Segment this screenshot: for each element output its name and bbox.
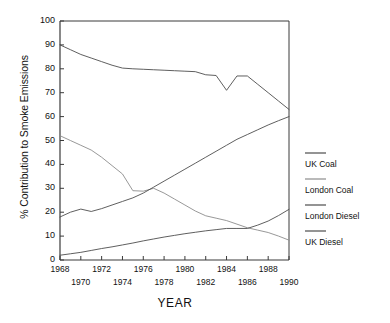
y-tick-label: 10 [25, 230, 55, 240]
x-axis-title: YEAR [60, 296, 290, 310]
y-tick-label: 100 [25, 15, 55, 25]
x-tick-label: 1982 [186, 277, 226, 287]
x-tick-label: 1976 [123, 264, 163, 274]
x-tick-label: 1988 [248, 264, 288, 274]
legend-item-uk-diesel: UK Diesel [305, 237, 343, 247]
x-tick-label: 1978 [144, 277, 184, 287]
x-tick-label: 1970 [61, 277, 101, 287]
x-tick-label: 1990 [269, 277, 309, 287]
x-tick-label: 1974 [102, 277, 142, 287]
axis-ticks [60, 21, 289, 260]
x-tick-label: 1980 [165, 264, 205, 274]
y-tick-label: 60 [25, 111, 55, 121]
y-tick-label: 90 [25, 39, 55, 49]
x-tick-label: 1984 [207, 264, 247, 274]
y-tick-label: 80 [25, 63, 55, 73]
legend-item-london-coal: London Coal [305, 185, 353, 195]
x-tick-label: 1972 [82, 264, 122, 274]
data-series-group [60, 45, 289, 255]
x-tick-label: 1968 [40, 264, 80, 274]
axes-frame [60, 21, 289, 260]
y-tick-label: 30 [25, 182, 55, 192]
legend-item-london-diesel: London Diesel [305, 211, 359, 221]
y-tick-label: 70 [25, 87, 55, 97]
y-tick-label: 50 [25, 135, 55, 145]
x-tick-label: 1986 [227, 277, 267, 287]
y-tick-label: 20 [25, 206, 55, 216]
y-tick-label: 40 [25, 158, 55, 168]
legend-item-uk-coal: UK Coal [305, 159, 337, 169]
chart-figure: % Contribution to Smoke Emissions YEAR 0… [0, 0, 390, 323]
y-tick-label: 0 [25, 254, 55, 264]
